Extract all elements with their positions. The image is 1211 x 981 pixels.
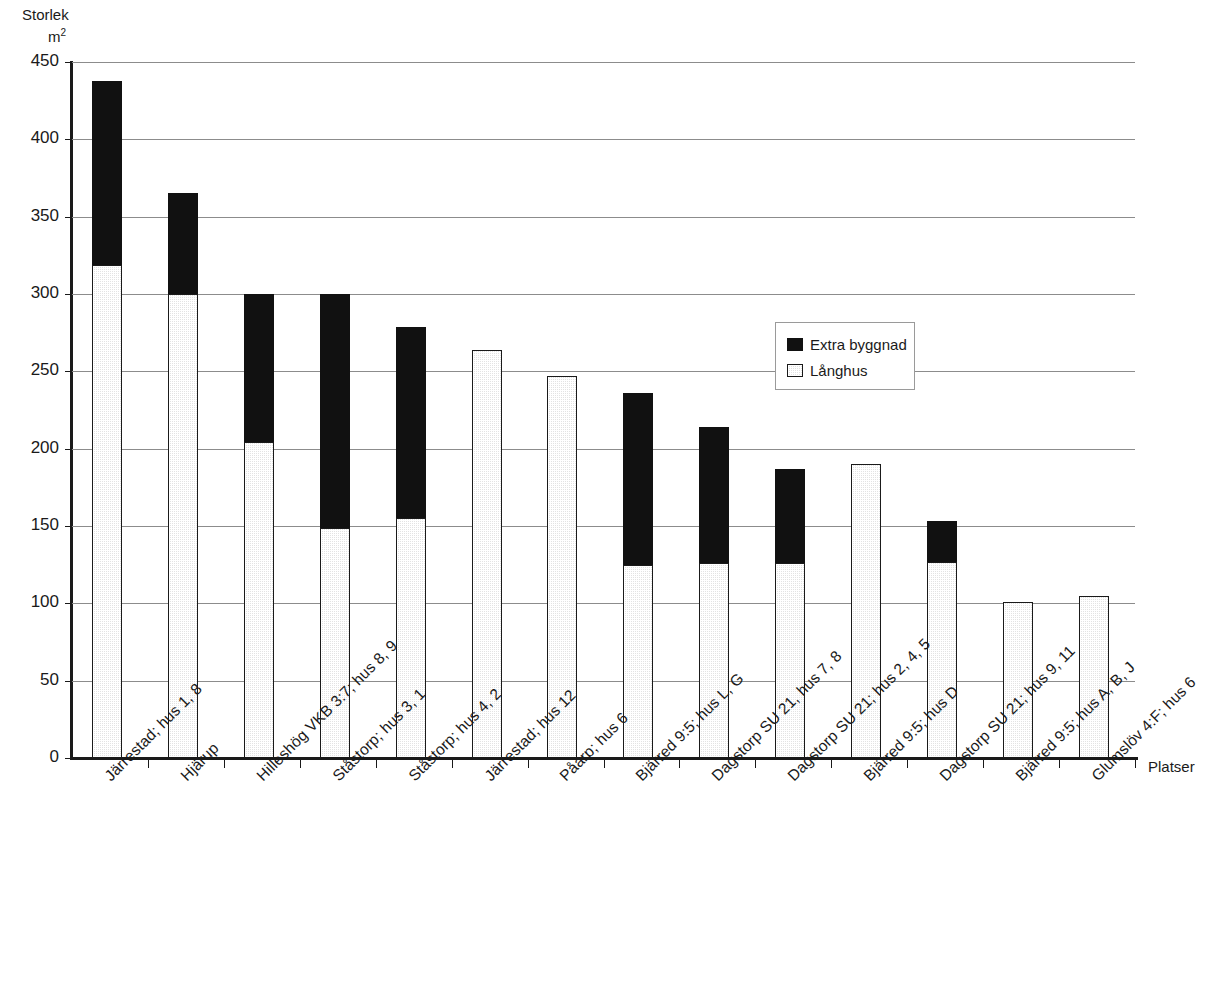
x-axis-tick-mark <box>528 760 529 768</box>
bar-chart: Storlek m2 Platser 450400350300250200150… <box>0 0 1211 981</box>
x-axis-tick-mark <box>831 760 832 768</box>
gridline <box>72 371 1135 372</box>
gridline <box>72 139 1135 140</box>
bar-stack[interactable] <box>623 393 653 758</box>
legend-item-label: Extra byggnad <box>810 336 907 353</box>
gridline <box>72 294 1135 295</box>
bar-segment-extra-byggnad[interactable] <box>168 193 198 294</box>
y-axis-tick-label: 150 <box>13 515 59 535</box>
legend-item-extra-byggnad: Extra byggnad <box>787 331 914 357</box>
bar-segment-langhus[interactable] <box>623 565 653 758</box>
x-axis-tick-mark <box>755 760 756 768</box>
y-axis-tick-mark <box>65 217 72 218</box>
gridline <box>72 681 1135 682</box>
y-axis-tick-label: 450 <box>13 51 59 71</box>
y-axis-tick-label: 400 <box>13 128 59 148</box>
y-axis-tick-mark <box>65 294 72 295</box>
gridline <box>72 217 1135 218</box>
bar-segment-extra-byggnad[interactable] <box>699 427 729 563</box>
x-axis-tick-mark <box>452 760 453 768</box>
bar-segment-extra-byggnad[interactable] <box>92 81 122 265</box>
x-axis-tick-mark <box>300 760 301 768</box>
x-axis-tick-mark <box>983 760 984 768</box>
black-square-icon <box>787 338 803 351</box>
x-axis-tick-mark <box>604 760 605 768</box>
y-axis-unit-label: m2 <box>48 27 66 45</box>
bar-segment-extra-byggnad[interactable] <box>927 521 957 561</box>
bar-segment-extra-byggnad[interactable] <box>396 327 426 519</box>
bar-segment-extra-byggnad[interactable] <box>244 294 274 442</box>
y-axis-tick-mark <box>65 139 72 140</box>
y-axis-tick-label: 100 <box>13 592 59 612</box>
x-axis-tick-mark <box>1059 760 1060 768</box>
y-axis-tick-mark <box>65 603 72 604</box>
legend-item-langhus: Långhus <box>787 357 914 383</box>
bar-stack[interactable] <box>168 193 198 758</box>
chart-legend: Extra byggnad Långhus <box>775 322 915 390</box>
bar-stack[interactable] <box>244 294 274 758</box>
bar-segment-langhus[interactable] <box>699 563 729 758</box>
bar-segment-extra-byggnad[interactable] <box>320 294 350 528</box>
y-axis-tick-label: 250 <box>13 360 59 380</box>
bar-segment-extra-byggnad[interactable] <box>623 393 653 565</box>
bar-segment-langhus[interactable] <box>92 265 122 758</box>
y-axis-tick-mark <box>65 526 72 527</box>
y-axis-tick-mark <box>65 681 72 682</box>
bar-segment-langhus[interactable] <box>927 562 957 758</box>
y-axis-tick-mark <box>65 758 72 759</box>
x-axis-tick-mark <box>224 760 225 768</box>
bar-stack[interactable] <box>1079 596 1109 758</box>
y-axis-tick-label: 200 <box>13 438 59 458</box>
gridline <box>72 449 1135 450</box>
x-axis-tick-mark <box>907 760 908 768</box>
y-axis-tick-mark <box>65 449 72 450</box>
gridline <box>72 526 1135 527</box>
y-axis-tick-label: 50 <box>13 670 59 690</box>
bar-segment-langhus[interactable] <box>244 442 274 758</box>
x-axis-tick-mark <box>376 760 377 768</box>
gray-square-icon <box>787 364 803 377</box>
legend-item-label: Långhus <box>810 362 868 379</box>
y-axis-title: Storlek <box>22 6 69 23</box>
x-axis-tick-mark <box>1135 760 1136 768</box>
y-axis-tick-label: 300 <box>13 283 59 303</box>
plot-area <box>72 62 1135 758</box>
x-axis-title: Platser <box>1148 758 1195 775</box>
y-axis-tick-label: 0 <box>13 747 59 767</box>
y-axis-tick-label: 350 <box>13 206 59 226</box>
x-axis-tick-mark <box>679 760 680 768</box>
bar-segment-langhus[interactable] <box>1079 596 1109 758</box>
bar-segment-langhus[interactable] <box>775 563 805 758</box>
y-axis-tick-mark <box>65 371 72 372</box>
bar-stack[interactable] <box>92 81 122 758</box>
y-axis-tick-mark <box>65 62 72 63</box>
x-axis-tick-mark <box>148 760 149 768</box>
gridline <box>72 62 1135 63</box>
bar-segment-extra-byggnad[interactable] <box>775 469 805 563</box>
gridline <box>72 603 1135 604</box>
